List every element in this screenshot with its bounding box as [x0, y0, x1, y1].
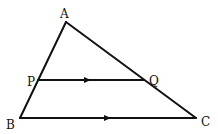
side-ab: [20, 22, 66, 118]
triangle-diagram: A P Q B C: [0, 0, 218, 134]
label-p: P: [27, 75, 35, 89]
parallel-arrow-bc-icon: [104, 115, 111, 121]
label-q: Q: [149, 74, 159, 88]
parallel-arrow-pq-icon: [84, 77, 91, 83]
label-c: C: [201, 115, 210, 129]
label-a: A: [59, 7, 69, 21]
side-ac: [66, 22, 196, 118]
label-b: B: [6, 118, 15, 132]
